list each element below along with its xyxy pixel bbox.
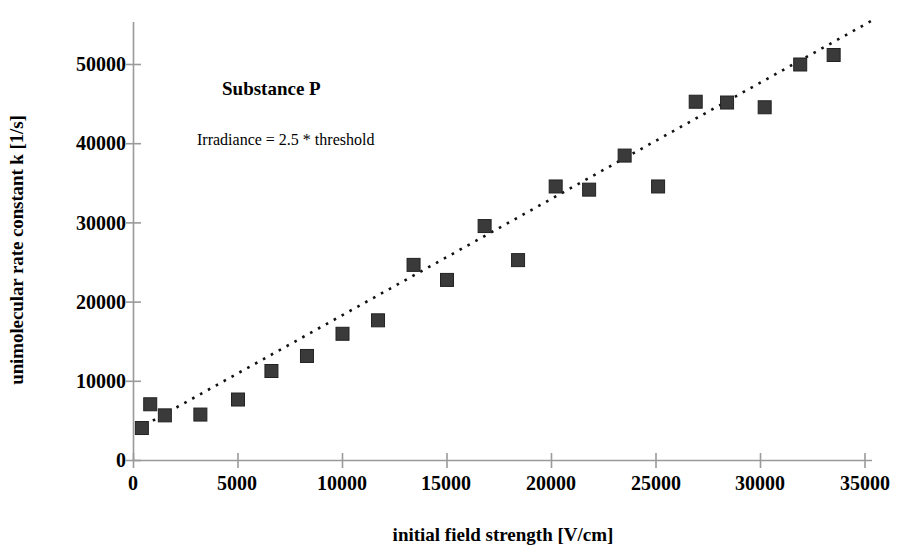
chart-figure: unimolecular rate constant k [1/s] 50000… [0, 0, 914, 560]
data-point [618, 149, 631, 162]
data-point [758, 101, 771, 114]
plot-area [0, 0, 914, 560]
data-point [232, 393, 245, 406]
data-point [827, 49, 840, 62]
data-point [336, 327, 349, 340]
data-point-markers [135, 49, 840, 435]
data-point [158, 409, 171, 422]
data-point [372, 314, 385, 327]
data-point [144, 398, 157, 411]
data-point [300, 349, 313, 362]
trendline [145, 20, 873, 425]
data-point [512, 254, 525, 267]
data-point [441, 273, 454, 286]
data-point [721, 96, 734, 109]
data-point [407, 258, 420, 271]
data-point [549, 180, 562, 193]
data-point [194, 408, 207, 421]
data-point [583, 183, 596, 196]
data-point [265, 365, 278, 378]
data-point [794, 58, 807, 71]
data-point [478, 220, 491, 233]
data-point [135, 422, 148, 435]
data-point [689, 95, 702, 108]
data-point [652, 180, 665, 193]
